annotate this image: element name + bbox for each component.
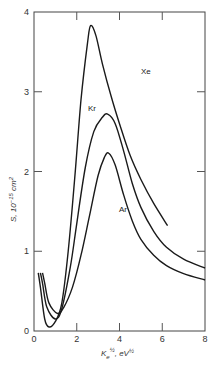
- series-label-ar: Ar: [119, 205, 127, 214]
- curve-kr: [40, 114, 205, 319]
- series-label-xe: Xe: [141, 67, 151, 76]
- plot-frame: [34, 12, 205, 331]
- plot-border: [34, 12, 205, 331]
- y-tick-label: 3: [24, 87, 29, 97]
- x-axis-label: Ke½, eV½: [101, 347, 134, 360]
- y-tick-label: 2: [24, 167, 29, 177]
- y-tick-label: 4: [24, 7, 29, 17]
- y-tick-label: 1: [24, 246, 29, 256]
- y-tick-label: 0: [24, 326, 29, 336]
- x-tick-label: 0: [31, 334, 36, 344]
- x-tick-label: 4: [117, 334, 122, 344]
- series-curves: [38, 25, 205, 327]
- axis-ticks: 0246801234: [24, 7, 208, 344]
- x-tick-label: 6: [160, 334, 165, 344]
- y-axis-label: S, 10−15 cm2: [8, 176, 18, 222]
- x-tick-label: 2: [74, 334, 79, 344]
- chart: 0246801234 Xe Kr Ar Ke½, eV½ S, 10−15 cm…: [0, 0, 218, 372]
- x-tick-label: 8: [202, 334, 207, 344]
- series-label-kr: Kr: [88, 104, 96, 113]
